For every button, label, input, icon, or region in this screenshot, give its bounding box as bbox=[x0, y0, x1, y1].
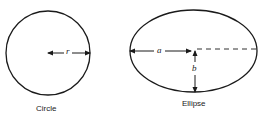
semi-major-label: a bbox=[156, 46, 163, 55]
ellipse-caption: Ellipse bbox=[182, 99, 206, 108]
semi-minor-label: b bbox=[191, 64, 198, 73]
circle-caption: Circle bbox=[36, 104, 56, 113]
radius-label: r bbox=[65, 47, 71, 56]
